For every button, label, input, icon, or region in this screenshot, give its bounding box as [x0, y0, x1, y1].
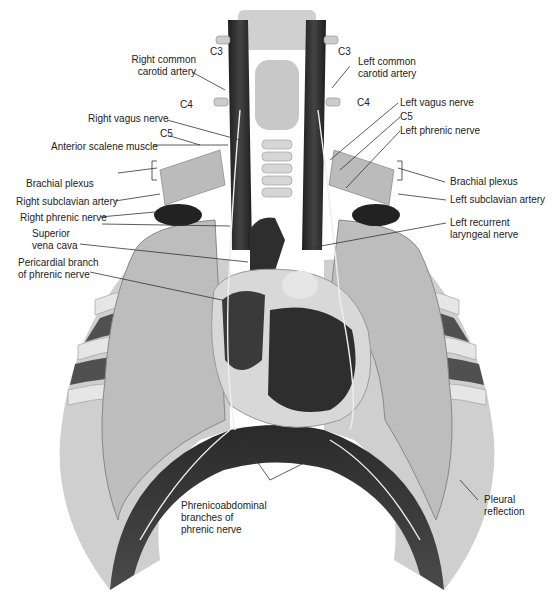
label-right-phrenic-nerve: Right phrenic nerve [20, 212, 107, 224]
label-superior-vena-cava: Superior vena cava [32, 228, 78, 252]
label-c5-left: C5 [400, 111, 413, 123]
label-c4-left: C4 [357, 97, 370, 109]
label-brachial-plexus-right: Brachial plexus [26, 178, 94, 190]
label-brachial-plexus-left: Brachial plexus [450, 176, 518, 188]
phrenic-nerve-diagram: C3 C3 Right common carotid artery Left c… [0, 0, 554, 600]
label-pleural-reflection: Pleural reflection [484, 494, 525, 518]
label-left-common-carotid: Left common carotid artery [358, 56, 416, 80]
label-left-recurrent-laryngeal-nerve: Left recurrent laryngeal nerve [450, 217, 518, 241]
label-left-subclavian-artery: Left subclavian artery [450, 194, 545, 206]
label-left-phrenic-nerve: Left phrenic nerve [400, 125, 480, 137]
label-left-vagus-nerve: Left vagus nerve [400, 97, 474, 109]
label-pericardial-branch: Pericardial branch of phrenic nerve [18, 257, 99, 281]
label-right-subclavian-artery: Right subclavian artery [16, 196, 118, 208]
label-anterior-scalene-muscle: Anterior scalene muscle [51, 141, 158, 153]
thorax-illustration [0, 0, 554, 600]
label-c3-left: C3 [338, 46, 351, 58]
neck-structures [154, 10, 400, 250]
label-phrenicoabdominal-branches: Phrenicoabdominal branches of phrenic ne… [181, 500, 267, 536]
label-c4-right: C4 [180, 99, 193, 111]
label-c5-right: C5 [160, 128, 173, 140]
label-right-vagus-nerve: Right vagus nerve [88, 113, 169, 125]
label-c3-right: C3 [210, 46, 223, 58]
label-right-common-carotid: Right common carotid artery [130, 54, 196, 78]
